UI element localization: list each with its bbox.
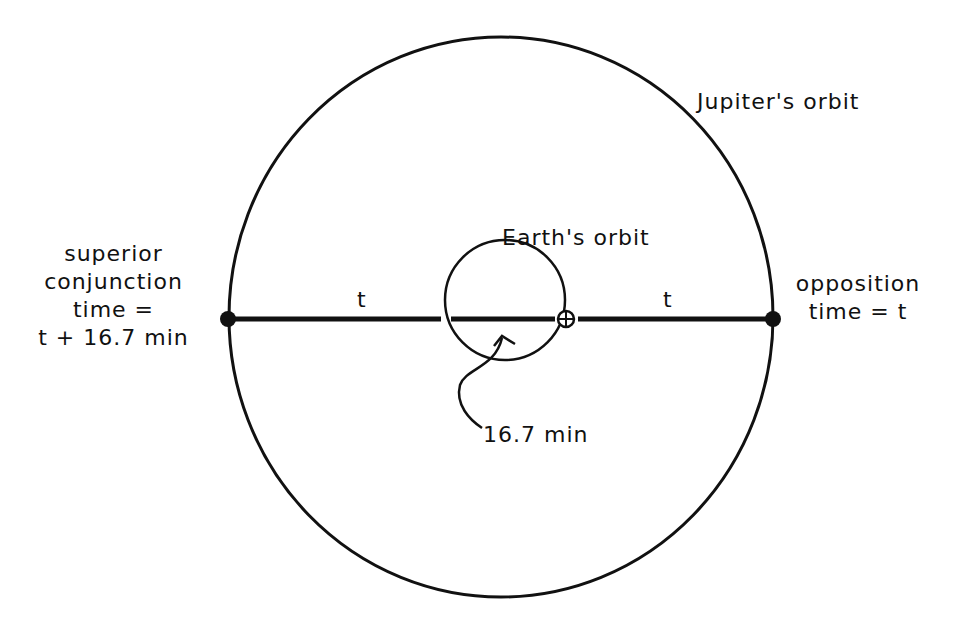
jupiter-opposition-dot xyxy=(765,311,781,327)
conjunction-line4: t + 16.7 min xyxy=(6,324,221,352)
opposition-line1: opposition xyxy=(788,270,928,298)
segment-label-right: t xyxy=(663,286,673,314)
conjunction-line3: time = xyxy=(6,296,221,324)
jupiter-conjunction-dot xyxy=(220,311,236,327)
conjunction-label: superior conjunction time = t + 16.7 min xyxy=(6,240,221,352)
earth-orbit-circle xyxy=(445,240,565,360)
segment-label-left: t xyxy=(357,286,367,314)
opposition-line2: time = t xyxy=(788,298,928,326)
conjunction-line2: conjunction xyxy=(6,268,221,296)
opposition-label: opposition time = t xyxy=(788,270,928,326)
conjunction-line1: superior xyxy=(6,240,221,268)
delay-arrow xyxy=(459,338,502,428)
arrow-head-icon xyxy=(494,336,515,346)
earth-orbit-label: Earth's orbit xyxy=(502,224,650,252)
jupiter-orbit-label: Jupiter's orbit xyxy=(697,88,859,116)
delay-label: 16.7 min xyxy=(483,421,588,449)
earth-icon xyxy=(558,311,574,327)
